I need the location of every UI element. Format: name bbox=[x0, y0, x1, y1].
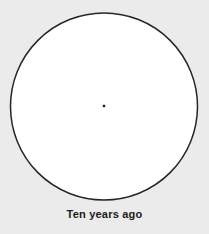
figure-root: Ten years ago bbox=[0, 0, 209, 234]
figure-caption: Ten years ago bbox=[0, 208, 209, 221]
center-dot-icon bbox=[103, 105, 105, 107]
diagram-area bbox=[0, 0, 209, 205]
circle-diagram bbox=[0, 0, 209, 205]
